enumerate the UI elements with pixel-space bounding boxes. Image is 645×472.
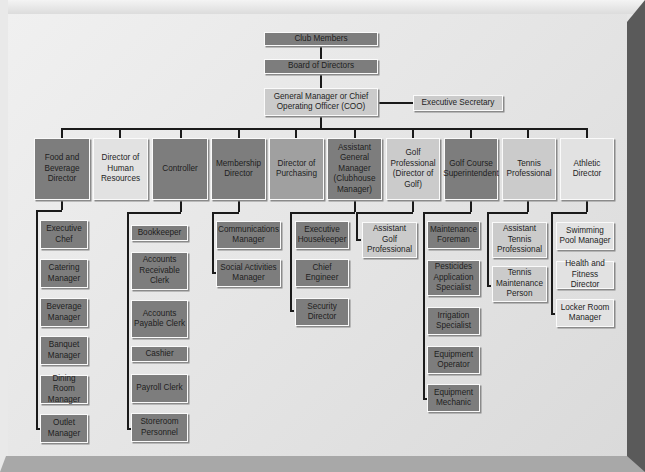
connector <box>527 128 529 138</box>
node-executive-housekeeper[interactable]: Executive Housekeeper <box>295 221 349 249</box>
node-irrigation-specialist[interactable]: Irrigation Specialist <box>427 307 480 335</box>
connector <box>487 212 528 214</box>
node-bookkeeper[interactable]: Bookkeeper <box>131 225 188 241</box>
node-storeroom-personnel[interactable]: Storeroom Personnel <box>131 413 188 442</box>
node-locker-room-manager[interactable]: Locker Room Manager <box>556 299 614 327</box>
node-assistant-tennis-professional[interactable]: Assistant Tennis Professional <box>492 222 547 258</box>
node-catering-manager[interactable]: Catering Manager <box>40 259 88 288</box>
connector <box>551 212 587 214</box>
node-golf-professional[interactable]: Golf Professional (Director of Golf) <box>386 138 440 200</box>
node-banquet-manager[interactable]: Banquet Manager <box>40 336 88 365</box>
connector <box>354 200 356 212</box>
connector <box>180 128 182 138</box>
node-assistant-gm[interactable]: Assistant General Manager (Clubhouse Man… <box>327 138 382 200</box>
connector <box>354 128 356 138</box>
connector <box>180 200 182 212</box>
node-accounts-payable-clerk[interactable]: Accounts Payable Clerk <box>131 300 188 338</box>
frame-bevel-bottom <box>0 456 645 472</box>
node-assistant-golf-professional[interactable]: Assistant Golf Professional <box>362 222 417 258</box>
node-food-beverage-director[interactable]: Food and Beverage Director <box>34 138 90 200</box>
connector <box>412 200 414 212</box>
connector <box>586 200 588 212</box>
connector <box>423 212 471 214</box>
node-accounts-receivable-clerk[interactable]: Accounts Receivable Clerk <box>131 252 188 290</box>
connector <box>290 212 355 214</box>
connector <box>356 239 361 241</box>
connector <box>320 116 322 128</box>
connector <box>290 310 294 312</box>
node-tennis-professional[interactable]: Tennis Professional <box>502 138 556 200</box>
node-membership-director[interactable]: Membership Director <box>211 138 266 200</box>
connector <box>238 200 240 212</box>
node-athletic-director[interactable]: Athletic Director <box>560 138 614 200</box>
connector <box>551 313 555 315</box>
connector <box>320 46 322 59</box>
connector <box>527 200 529 212</box>
node-payroll-clerk[interactable]: Payroll Clerk <box>131 374 188 403</box>
connector <box>470 128 472 138</box>
frame-bevel-top <box>0 0 645 14</box>
connector <box>378 102 413 104</box>
node-board-of-directors[interactable]: Board of Directors <box>264 59 378 74</box>
node-cashier[interactable]: Cashier <box>131 346 188 362</box>
node-executive-secretary[interactable]: Executive Secretary <box>413 95 503 111</box>
connector <box>586 128 588 138</box>
connector <box>295 128 297 138</box>
node-beverage-manager[interactable]: Beverage Manager <box>40 298 88 327</box>
node-controller[interactable]: Controller <box>152 138 208 200</box>
connector <box>119 128 121 138</box>
node-equipment-operator[interactable]: Equipment Operator <box>427 346 480 374</box>
node-purchasing-director[interactable]: Director of Purchasing <box>269 138 324 200</box>
connector <box>61 128 63 138</box>
node-golf-course-superintendent[interactable]: Golf Course Superintendent <box>444 138 498 200</box>
connector <box>487 212 489 285</box>
connector <box>470 200 472 212</box>
node-pesticides-application-specialist[interactable]: Pesticides Application Specialist <box>427 260 480 296</box>
node-club-members[interactable]: Club Members <box>264 32 378 46</box>
node-outlet-manager[interactable]: Outlet Manager <box>40 414 88 443</box>
node-social-activities-manager[interactable]: Social Activities Manager <box>216 259 281 287</box>
connector <box>36 210 62 212</box>
connector <box>61 200 63 210</box>
node-executive-chef[interactable]: Executive Chef <box>40 220 88 249</box>
node-tennis-maintenance-person[interactable]: Tennis Maintenance Person <box>492 266 547 302</box>
connector <box>127 212 129 428</box>
connector <box>36 210 38 428</box>
node-chief-engineer[interactable]: Chief Engineer <box>295 259 349 287</box>
node-maintenance-foreman[interactable]: Maintenance Foreman <box>427 221 480 249</box>
connector <box>412 128 414 138</box>
node-communications-manager[interactable]: Communications Manager <box>216 221 281 249</box>
connector <box>290 212 292 310</box>
node-swimming-pool-manager[interactable]: Swimming Pool Manager <box>556 222 614 250</box>
connector <box>356 212 358 239</box>
connector <box>487 285 491 287</box>
node-equipment-mechanic[interactable]: Equipment Mechanic <box>427 384 480 412</box>
node-general-manager[interactable]: General Manager or Chief Operating Offic… <box>264 88 378 116</box>
connector <box>212 212 239 214</box>
connector <box>238 128 240 138</box>
connector <box>423 212 425 398</box>
frame-bevel-left <box>0 0 8 472</box>
node-hr-director[interactable]: Director of Human Resources <box>93 138 148 200</box>
connector <box>61 128 587 130</box>
connector <box>320 74 322 88</box>
node-security-director[interactable]: Security Director <box>295 298 349 326</box>
frame-bevel-right <box>627 0 645 472</box>
connector <box>212 212 214 272</box>
connector <box>127 212 181 214</box>
connector <box>551 212 553 313</box>
connector <box>356 212 413 214</box>
node-dining-room-manager[interactable]: Dining Room Manager <box>40 375 88 404</box>
node-health-fitness-director[interactable]: Health and Fitness Director <box>556 261 614 289</box>
